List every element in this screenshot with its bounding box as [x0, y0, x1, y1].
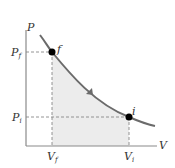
point-f: [49, 49, 56, 56]
vf-label: Vf: [47, 150, 59, 164]
vi-label: Vi: [124, 150, 134, 164]
pv-diagram: P V f i Pf Pi Vf Vi: [0, 0, 175, 168]
pf-label: Pf: [10, 46, 22, 60]
point-f-label: f: [56, 43, 63, 56]
point-i-label: i: [132, 105, 136, 118]
p-axis-label: P: [26, 21, 35, 34]
v-axis-label: V: [159, 139, 168, 152]
pi-label: Pi: [11, 111, 22, 125]
